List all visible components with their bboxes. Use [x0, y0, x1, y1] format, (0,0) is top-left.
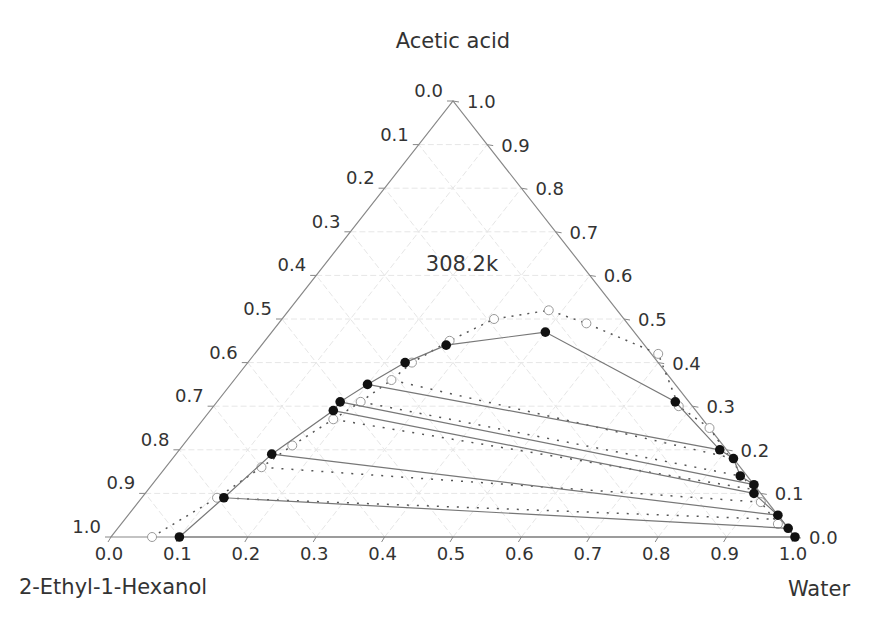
filled-data-point — [441, 340, 451, 350]
calculated-binodal-curve — [152, 310, 778, 537]
bottom-tick-label: 1.0 — [779, 543, 808, 564]
right-tick-label: 0.8 — [535, 178, 564, 199]
experimental-tie-line — [272, 454, 778, 515]
filled-data-point — [329, 406, 339, 416]
grid-line — [214, 406, 317, 537]
right-tick-label: 0.5 — [638, 309, 667, 330]
bottom-tick-label: 0.2 — [231, 543, 260, 564]
right-tick-label: 0.3 — [706, 396, 735, 417]
filled-data-point — [783, 523, 793, 533]
bottom-tick-label: 0.5 — [437, 543, 466, 564]
open-data-point — [705, 424, 714, 433]
filled-data-point — [400, 358, 410, 368]
right-tick-label: 0.0 — [809, 527, 838, 548]
left-tick-label: 0.5 — [243, 298, 272, 319]
right-tick-label: 0.9 — [501, 135, 530, 156]
vertex-label-bottom-left: 2-Ethyl-1-Hexanol — [19, 575, 207, 599]
bottom-tick-label: 0.8 — [642, 543, 671, 564]
left-tick-label: 0.9 — [107, 472, 136, 493]
filled-data-point — [729, 454, 739, 464]
open-data-point — [490, 315, 499, 324]
bottom-tick-label: 0.1 — [163, 543, 192, 564]
right-tick-label: 1.0 — [467, 91, 496, 112]
left-tick-label: 0.4 — [278, 254, 307, 275]
left-tick-label: 0.0 — [414, 80, 443, 101]
bottom-tick-label: 0.6 — [505, 543, 534, 564]
filled-data-point — [749, 480, 759, 490]
axis-ticks: 0.00.01.00.10.10.90.20.20.80.30.30.70.40… — [72, 80, 837, 564]
grid-line — [350, 232, 589, 537]
filled-data-point — [267, 449, 277, 459]
right-tick-label: 0.4 — [672, 353, 701, 374]
ternary-chart: 0.00.01.00.10.10.90.20.20.80.30.30.70.40… — [0, 0, 891, 632]
right-tick-label: 0.6 — [604, 265, 633, 286]
experimental-tie-line — [224, 498, 788, 529]
left-tick-label: 0.6 — [209, 342, 238, 363]
right-tick-label: 0.7 — [570, 222, 599, 243]
grid-line — [316, 232, 555, 537]
bottom-tick-label: 0.0 — [95, 543, 124, 564]
vertex-label-bottom-right: Water — [788, 577, 850, 601]
left-tick-label: 0.7 — [175, 385, 204, 406]
bottom-tick-label: 0.4 — [368, 543, 397, 564]
filled-data-point — [219, 493, 229, 503]
filled-data-point — [671, 397, 681, 407]
filled-data-point — [735, 471, 745, 481]
right-tick-label: 0.1 — [775, 483, 804, 504]
temperature-annotation: 308.2k — [426, 252, 499, 276]
filled-data-point — [773, 510, 783, 520]
experimental-series — [175, 327, 800, 542]
filled-data-point — [175, 532, 185, 542]
calculated-tie-line — [333, 419, 750, 489]
filled-data-point — [749, 489, 759, 499]
left-tick-label: 1.0 — [72, 516, 101, 537]
left-tick-label: 0.3 — [312, 211, 341, 232]
experimental-tie-line — [368, 384, 720, 449]
open-data-point — [544, 306, 553, 315]
filled-data-point — [363, 380, 373, 390]
experimental-tie-line — [333, 411, 754, 494]
bottom-tick-label: 0.3 — [300, 543, 329, 564]
open-data-point — [582, 319, 591, 328]
bottom-tick-label: 0.9 — [710, 543, 739, 564]
bottom-tick-label: 0.7 — [573, 543, 602, 564]
left-tick-label: 0.1 — [380, 124, 409, 145]
grid-line — [419, 145, 727, 537]
open-data-point — [387, 376, 396, 385]
left-tick-label: 0.8 — [141, 429, 170, 450]
right-tick-label: 0.2 — [741, 440, 770, 461]
vertex-label-top: Acetic acid — [396, 29, 510, 53]
open-data-point — [329, 415, 338, 424]
open-data-point — [654, 349, 663, 358]
filled-data-point — [541, 327, 551, 337]
grid-line — [453, 319, 624, 537]
grid-line — [145, 493, 179, 537]
open-data-point — [148, 533, 157, 542]
calculated-series — [148, 306, 783, 542]
filled-data-point — [790, 532, 800, 542]
left-tick-label: 0.2 — [346, 167, 375, 188]
filled-data-point — [335, 397, 345, 407]
filled-data-point — [715, 445, 725, 455]
